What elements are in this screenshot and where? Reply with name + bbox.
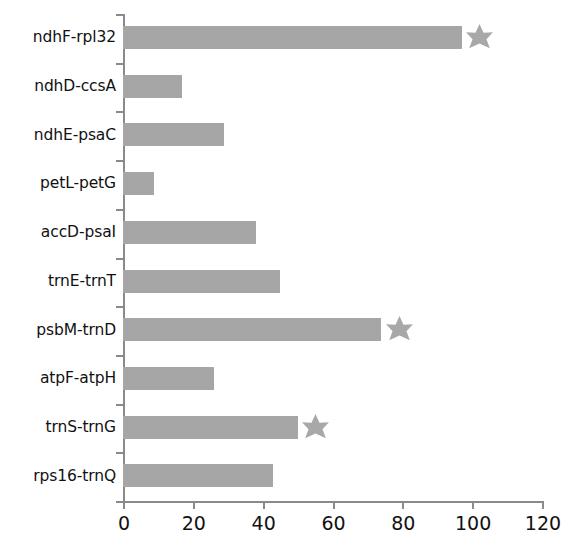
bar: [123, 270, 280, 293]
plot-area: [123, 14, 542, 501]
bar-row: [123, 355, 542, 404]
x-axis-tick: [402, 501, 404, 509]
x-axis-tick: [472, 501, 474, 509]
bar-row: [123, 111, 542, 160]
x-axis-tick: [263, 501, 265, 509]
x-axis-tick-label: 120: [525, 512, 561, 534]
x-axis-tick: [123, 501, 125, 509]
x-axis-tick-label: 0: [118, 512, 130, 534]
bar-row: [123, 306, 542, 355]
bar-chart: ndhF-rpl32ndhD-ccsAndhE-psaCpetL-petGacc…: [0, 0, 571, 549]
bar: [123, 318, 381, 341]
bar: [123, 464, 273, 487]
x-axis-tick-label: 80: [391, 512, 415, 534]
bar: [123, 416, 298, 439]
bar: [123, 123, 224, 146]
category-label: atpF-atpH: [3, 369, 116, 387]
x-axis-tick-label: 100: [455, 512, 491, 534]
bar-row: [123, 258, 542, 307]
category-label: trnS-trnG: [3, 418, 116, 436]
category-label: trnE-trnT: [3, 272, 116, 290]
y-axis-category-labels: ndhF-rpl32ndhD-ccsAndhE-psaCpetL-petGacc…: [0, 14, 116, 501]
bar-row: [123, 404, 542, 453]
x-axis-tick: [193, 501, 195, 509]
star-marker-icon: [300, 412, 331, 443]
category-label: psbM-trnD: [3, 321, 116, 339]
bar: [123, 367, 214, 390]
bar-row: [123, 160, 542, 209]
category-label: petL-petG: [3, 174, 116, 192]
star-marker-icon: [384, 314, 415, 345]
bar-row: [123, 452, 542, 501]
x-axis-tick-label: 60: [321, 512, 345, 534]
category-label: rps16-trnQ: [3, 467, 116, 485]
x-axis-tick-label: 20: [182, 512, 206, 534]
bar-row: [123, 209, 542, 258]
bar-row: [123, 14, 542, 63]
bar: [123, 221, 256, 244]
x-axis-tick-label: 40: [252, 512, 276, 534]
category-label: ndhD-ccsA: [3, 77, 116, 95]
x-axis-tick: [333, 501, 335, 509]
category-label: ndhF-rpl32: [3, 28, 116, 46]
category-label: ndhE-psaC: [3, 126, 116, 144]
bar: [123, 75, 182, 98]
bar-row: [123, 63, 542, 112]
bar: [123, 26, 462, 49]
star-marker-icon: [464, 22, 495, 53]
bar: [123, 172, 154, 195]
category-label: accD-psaI: [3, 223, 116, 241]
x-axis-tick: [542, 501, 544, 509]
